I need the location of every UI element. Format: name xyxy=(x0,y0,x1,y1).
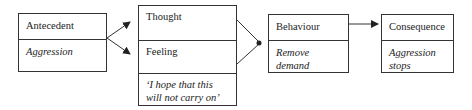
quote-cell: ‘I hope that this will not carry on’ xyxy=(139,73,236,105)
behaviour-box: Behaviour Remove demand xyxy=(268,14,349,73)
behaviour-header: Behaviour xyxy=(269,15,348,40)
antecedent-box: Antecedent Aggression xyxy=(18,13,107,72)
feeling-cell: Feeling xyxy=(139,40,236,73)
behaviour-body: Remove demand xyxy=(269,40,348,72)
consequence-box: Consequence Aggression stops xyxy=(381,14,454,73)
antecedent-body: Aggression xyxy=(19,39,106,71)
thought-cell: Thought xyxy=(139,6,236,40)
antecedent-header: Antecedent xyxy=(19,14,106,39)
consequence-header: Consequence xyxy=(382,15,453,40)
consequence-body: Aggression stops xyxy=(382,40,453,72)
thought-feeling-box: Thought Feeling ‘I hope that this will n… xyxy=(138,5,237,106)
